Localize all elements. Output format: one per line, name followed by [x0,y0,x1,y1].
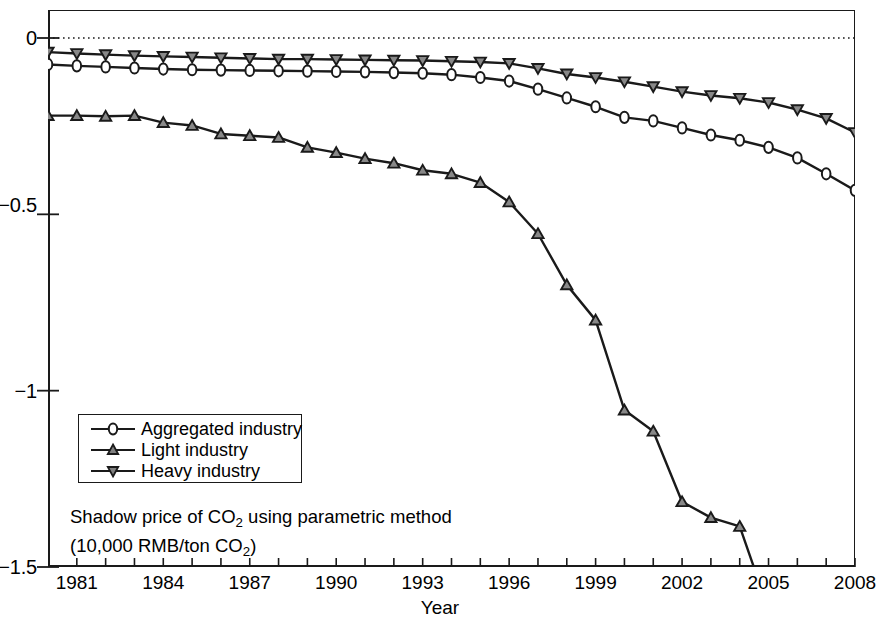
data-point-marker [390,67,399,78]
data-point-marker [562,92,571,103]
data-point-marker [793,152,802,163]
data-point-marker [73,60,82,71]
data-point-marker [707,129,716,140]
x-tick-label: 2008 [820,572,880,594]
legend-label: Aggregated industry [137,420,302,438]
x-tick-label: 1981 [42,572,112,594]
x-tick-label: 2005 [734,572,804,594]
data-point-marker [821,114,832,124]
chart-legend: Aggregated industry Light industry Heavy… [78,414,302,483]
data-point-marker [447,69,456,80]
legend-marker-triangle-down-icon [89,461,137,481]
data-point-marker [676,496,687,506]
data-point-marker [159,63,168,74]
data-point-marker [561,279,572,289]
annotation-line-2: (10,000 RMB/ton CO2) [70,534,452,563]
data-point-marker [822,168,831,179]
data-point-marker [649,115,658,126]
x-tick-label: 1999 [561,572,631,594]
x-tick-label: 1996 [474,572,544,594]
legend-label: Light industry [137,441,248,459]
legend-item-light-industry: Light industry [89,439,301,460]
data-point-marker [188,64,197,75]
data-point-marker [245,65,254,76]
legend-label: Heavy industry [137,462,260,480]
legend-item-aggregated-industry: Aggregated industry [89,418,301,439]
data-point-marker [620,112,629,123]
data-point-marker [735,135,744,146]
data-point-marker [505,75,514,86]
y-tick-label-neg1: −1 [15,380,37,403]
data-point-marker [849,128,860,138]
x-tick-label: 2002 [647,572,717,594]
data-point-marker [619,405,630,415]
data-point-marker [705,512,716,522]
data-point-marker [418,68,427,79]
legend-item-heavy-industry: Heavy industry [89,460,301,481]
data-point-marker [851,185,860,196]
data-point-marker [678,122,687,133]
y-tick-label-neg15: −1.5 [0,556,37,579]
data-point-marker [274,65,283,76]
data-point-marker [361,66,370,77]
y-tick-label-neg05: −0.5 [0,194,37,217]
data-point-marker [332,66,341,77]
y-tick-label-0: 0 [26,27,37,50]
data-point-marker [303,66,312,77]
annotation-line-1: Shadow price of CO2 using parametric met… [70,505,452,534]
data-point-marker [534,84,543,95]
x-tick-label: 1990 [301,572,371,594]
data-point-marker [101,61,110,72]
data-point-marker [44,59,53,70]
x-tick-label: 1987 [215,572,285,594]
chart-annotation: Shadow price of CO2 using parametric met… [70,505,452,562]
x-axis-title: Year [0,597,880,619]
data-point-marker [476,72,485,83]
chart-figure: 0 −0.5 −1 −1.5 1981198419871990199319961… [0,0,880,620]
data-point-marker [764,142,773,153]
x-tick-label: 1984 [128,572,198,594]
data-point-marker [591,101,600,112]
legend-marker-triangle-up-icon [89,440,137,460]
x-tick-label: 1993 [388,572,458,594]
data-point-marker [130,62,139,73]
legend-marker-circle-icon [89,419,137,439]
data-point-marker [217,64,226,75]
